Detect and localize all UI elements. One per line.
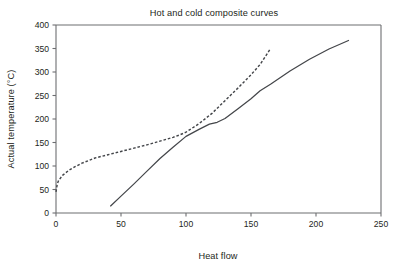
y-tick-label: 350 [35, 44, 50, 54]
y-tick-label: 150 [35, 138, 50, 148]
y-tick-label: 400 [35, 20, 50, 30]
x-tick-label: 0 [54, 219, 59, 229]
x-axis-ticks: 050100150200250 [54, 213, 389, 229]
axis-frame [56, 25, 381, 213]
chart-title: Hot and cold composite curves [150, 8, 279, 18]
chart-figure: Hot and cold composite curves 0501001502… [0, 0, 403, 267]
y-tick-label: 100 [35, 161, 50, 171]
y-axis-ticks: 050100150200250300350400 [35, 20, 56, 218]
x-tick-label: 250 [374, 219, 389, 229]
y-tick-label: 50 [39, 185, 49, 195]
x-tick-label: 50 [116, 219, 126, 229]
y-axis-label: Actual temperature (°C) [6, 70, 16, 169]
cold-composite-curve [111, 41, 349, 206]
y-tick-label: 200 [35, 114, 50, 124]
hot-composite-curve [56, 49, 271, 192]
series-group [56, 41, 349, 206]
composite-curves-chart: Hot and cold composite curves 0501001502… [0, 0, 403, 267]
x-tick-label: 100 [179, 219, 194, 229]
x-axis-label: Heat flow [198, 251, 237, 261]
y-tick-label: 0 [44, 208, 49, 218]
x-tick-label: 150 [244, 219, 259, 229]
y-tick-label: 250 [35, 91, 50, 101]
y-tick-label: 300 [35, 67, 50, 77]
x-tick-label: 200 [309, 219, 324, 229]
